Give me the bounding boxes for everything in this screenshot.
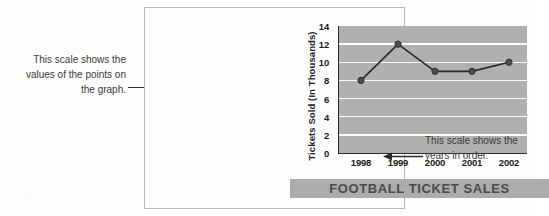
y-tick-label-8: 8	[324, 75, 329, 86]
y-axis-tick-labels: 02468101214	[315, 26, 329, 153]
data-point-2002	[506, 59, 512, 65]
chart-title-banner: FOOTBALL TICKET SALES	[290, 179, 549, 198]
y-tick-label-14: 14	[319, 21, 329, 32]
y-tick-label-12: 12	[319, 39, 329, 50]
data-point-2000	[432, 68, 438, 74]
data-point-1999	[395, 41, 401, 47]
series-line	[361, 44, 509, 80]
annotation-y-scale: This scale shows the values of the point…	[14, 52, 126, 97]
y-tick-label-2: 2	[324, 129, 329, 140]
y-tick-label-0: 0	[324, 148, 329, 159]
annotation-x-arrow	[383, 152, 423, 161]
y-tick-label-10: 10	[319, 57, 329, 68]
y-tick-label-4: 4	[324, 111, 329, 122]
y-tick-label-6: 6	[324, 93, 329, 104]
data-point-2001	[469, 68, 475, 74]
annotation-x-scale: This scale shows the years in order.	[425, 133, 529, 163]
chart-title: FOOTBALL TICKET SALES	[290, 179, 549, 198]
x-tick-label-1998: 1998	[351, 157, 371, 168]
chart-card: Tickets Sold (In Thousands) 02468101214 …	[144, 7, 405, 209]
data-point-1998	[358, 77, 364, 83]
